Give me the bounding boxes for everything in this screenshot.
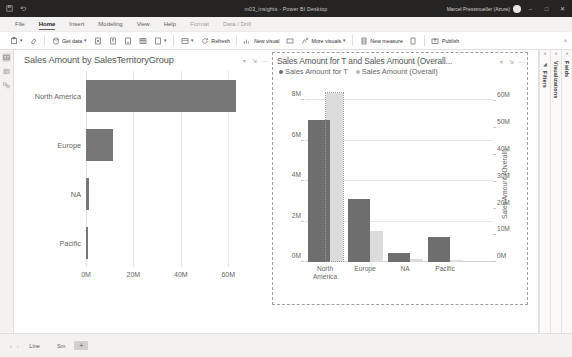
bar-row[interactable]: NA [86, 169, 252, 218]
filter-icon[interactable]: ▾ [241, 57, 248, 64]
more-visuals-icon [301, 36, 310, 45]
menu-item-modeling[interactable]: Modeling [91, 19, 129, 30]
previous-page-button[interactable]: ‹ [8, 343, 14, 349]
left-axis-tick: 2M [292, 211, 301, 218]
more-options-icon[interactable]: ⋯ [518, 58, 525, 65]
pane-tab-visualizations[interactable]: ˄ Visualizations [550, 50, 561, 333]
column-sales-for-t-north-america[interactable] [308, 120, 330, 262]
menu-item-view[interactable]: View [130, 19, 157, 30]
avatar[interactable] [513, 5, 521, 13]
legend-item-sales-for-t[interactable]: Sales Amount for T [279, 67, 348, 76]
menu-item-help[interactable]: Help [157, 19, 183, 30]
transform-data-button[interactable]: ▾ [177, 34, 197, 48]
menu-item-file[interactable]: File [8, 19, 32, 30]
column-sales-for-t-pacific[interactable] [428, 237, 450, 262]
column-group-na[interactable]: NA [385, 80, 425, 262]
bar-category-label: North America [35, 91, 81, 100]
pane-tab-filters[interactable]: ˄ ◢ Filters [539, 50, 550, 333]
user-account-label[interactable]: Marcel Pressmueller (Azure) [447, 6, 510, 12]
bar-row[interactable]: North America [86, 71, 252, 120]
publish-label: Publish [442, 38, 459, 44]
next-page-button[interactable]: › [15, 343, 21, 349]
menu-item-insert[interactable]: Insert [62, 19, 91, 30]
page-tab-sm[interactable]: Sm [49, 340, 73, 352]
focus-icon[interactable]: ⇲ [251, 57, 258, 64]
menu-item-home[interactable]: Home [32, 19, 63, 30]
new-measure-label: New measure [370, 38, 403, 44]
ribbon-divider [424, 35, 425, 46]
report-canvas[interactable]: Sales Amount by SalesTerritoryGroup ▾ ⇲ … [14, 50, 538, 333]
visual-title: Sales Amount by SalesTerritoryGroup [24, 55, 174, 65]
column-group-north-america[interactable]: North America [305, 80, 345, 262]
column-sales-for-t-europe[interactable] [348, 199, 370, 262]
right-pane-tabs: ˄ Fields ˄ Visualizations ˄ ◢ Filters [538, 50, 572, 333]
x-axis-category-label: Europe [354, 265, 375, 273]
datahub-button[interactable] [105, 34, 120, 48]
x-axis-category-label: NA [400, 265, 409, 273]
minimize-button[interactable]: – [524, 2, 537, 15]
right-axis-tick: 0M [497, 252, 506, 259]
excel-source-button[interactable] [90, 34, 105, 48]
filter-icon[interactable]: ▾ [498, 58, 505, 65]
bar-category-label: Pacific [60, 238, 82, 247]
format-painter-button[interactable] [26, 34, 41, 48]
page-tab-line[interactable]: Line [21, 340, 48, 352]
chevron-up-icon[interactable]: ˄ [566, 52, 569, 57]
column-group-europe[interactable]: Europe [345, 80, 385, 262]
right-axis-tickmark [493, 181, 496, 182]
new-visual-icon [243, 36, 252, 45]
maximize-button[interactable]: □ [540, 2, 553, 15]
column-plot-area: 0M 2M 4M 6M 8M 0M 10M 20M [305, 80, 465, 262]
visual-sales-for-t-and-overall[interactable]: Sales Amount for T and Sales Amount (Ove… [272, 52, 528, 305]
refresh-button[interactable]: Refresh [197, 34, 233, 48]
new-measure-button[interactable]: New measure [356, 34, 406, 48]
data-view-icon[interactable] [2, 67, 11, 76]
bar-na[interactable] [86, 178, 89, 210]
legend-item-sales-overall[interactable]: Sales Amount (Overall) [356, 67, 438, 76]
more-options-icon[interactable]: ⋯ [261, 57, 268, 64]
save-icon[interactable] [5, 4, 14, 13]
visual-title: Sales Amount for T and Sales Amount (Ove… [277, 56, 452, 66]
text-box-icon [286, 36, 295, 45]
publish-button[interactable]: Publish [428, 34, 462, 48]
get-data-button[interactable]: Get data ▾ [48, 34, 90, 48]
bar-row[interactable]: Pacific [86, 218, 252, 267]
bar-north-america[interactable] [86, 80, 236, 112]
sql-server-button[interactable] [120, 34, 135, 48]
refresh-label: Refresh [211, 38, 230, 44]
bar-pacific[interactable] [86, 227, 88, 259]
x-axis-tick: 0M [81, 271, 91, 278]
report-view-icon[interactable] [2, 53, 11, 62]
ribbon-divider [352, 35, 353, 46]
new-visual-button[interactable]: New visual [240, 34, 283, 48]
chevron-up-icon[interactable]: ˄ [555, 52, 558, 57]
quick-measure-button[interactable] [406, 34, 421, 48]
bar-row[interactable]: Europe [86, 120, 252, 169]
text-box-button[interactable] [283, 34, 298, 48]
close-button[interactable]: ✕ [556, 2, 569, 15]
add-page-button[interactable]: + [74, 341, 88, 350]
more-visuals-label: More visuals [312, 38, 342, 44]
focus-icon[interactable]: ⇲ [508, 58, 515, 65]
bar-europe[interactable] [86, 129, 113, 161]
excel-icon [93, 36, 102, 45]
paste-button[interactable]: ▾ [6, 34, 26, 48]
model-view-icon[interactable] [2, 81, 11, 90]
right-axis-tick: 50M [497, 118, 510, 125]
enter-data-button[interactable] [135, 34, 150, 48]
chevron-up-icon[interactable]: ˄ [544, 52, 547, 57]
dataverse-button[interactable]: ▾ [150, 34, 170, 48]
column-group-pacific[interactable]: Pacific [425, 80, 465, 262]
collapse-ribbon-button[interactable]: ˄ [564, 38, 572, 44]
undo-icon[interactable] [19, 4, 28, 13]
x-axis-category-label: North America [313, 265, 337, 280]
right-axis-tickmark [493, 208, 496, 209]
menu-item-data-drill[interactable]: Data / Drill [216, 19, 258, 30]
x-axis-tick: 20M [127, 271, 141, 278]
menu-item-format[interactable]: Format [183, 19, 216, 30]
page-tab-bar: ‹ › Line Sm + [0, 333, 572, 357]
more-visuals-button[interactable]: More visuals ▾ [298, 34, 350, 48]
pane-tab-fields[interactable]: ˄ Fields [561, 50, 572, 333]
column-sales-for-t-na[interactable] [388, 253, 410, 262]
visual-sales-by-territory[interactable]: Sales Amount by SalesTerritoryGroup ▾ ⇲ … [20, 52, 270, 305]
